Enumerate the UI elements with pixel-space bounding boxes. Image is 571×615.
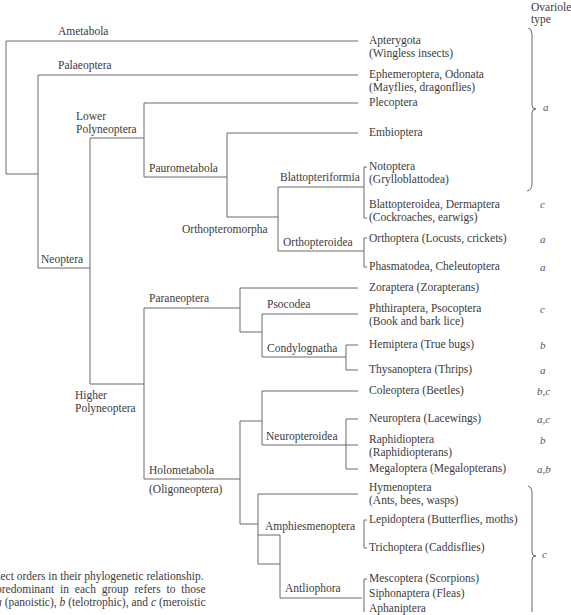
taxon-neuroptera: Neuroptera (Lacewings)	[369, 412, 481, 425]
taxon-phasmatodea: Phasmatodea, Cheleutoptera	[369, 260, 500, 273]
taxon-common-name: (Mayflies, dragonflies)	[369, 81, 484, 94]
taxon-name: Coleoptera (Beetles)	[369, 384, 464, 397]
taxon-thysanoptera: Thysanoptera (Thrips)	[369, 363, 472, 376]
taxon-common-name: (Book and bark lice)	[369, 315, 481, 328]
caption-line3: a (panoistic), b (telotrophic), and c (m…	[0, 596, 326, 609]
clade-higher-polyneoptera-line1: Higher	[75, 389, 107, 402]
taxon-name: Orthoptera (Locusts, crickets)	[369, 232, 507, 245]
taxon-hymenoptera: Hymenoptera (Ants, bees, wasps)	[369, 481, 458, 507]
clade-lower-polyneoptera-line2: Polyneoptera	[76, 123, 137, 136]
clade-paraneoptera: Paraneoptera	[149, 292, 209, 305]
ovariole-type-phasmatodea: a	[540, 261, 546, 273]
ovariole-type-raphidioptera: b	[540, 434, 546, 446]
ovariole-type-phthiraptera: c	[540, 303, 545, 315]
clade-ametabola: Ametabola	[58, 25, 108, 38]
caption-b-text: (telotrophic), and	[65, 596, 151, 608]
clade-amphiesmenoptera: Amphiesmenoptera	[265, 520, 355, 533]
figure-caption: sect orders in their phylogenetic relati…	[0, 570, 326, 609]
taxon-name: Mescoptera (Scorpions)	[369, 572, 479, 585]
taxon-siphonaptera: Siphonaptera (Fleas)	[369, 587, 465, 600]
taxon-lepidoptera: Lepidoptera (Butterflies, moths)	[369, 513, 518, 526]
taxon-raphidioptera: Raphidioptera (Raphidiopterans)	[369, 433, 452, 459]
taxon-name: Phthiraptera, Psocoptera	[369, 302, 481, 315]
brace-label-a: a	[543, 101, 549, 113]
taxon-zoraptera: Zoraptera (Zorapterans)	[369, 281, 479, 294]
taxon-name: Raphidioptera	[369, 433, 452, 446]
clade-higher-polyneoptera-line2: Polyneoptera	[75, 402, 136, 415]
clade-neoptera: Neoptera	[41, 253, 83, 266]
ovariole-type-thysanoptera: a	[540, 364, 546, 376]
taxon-trichoptera: Trichoptera (Caddisflies)	[369, 541, 485, 554]
clade-paurometabola: Paurometabola	[149, 162, 218, 175]
taxon-common-name: (Raphidiopterans)	[369, 446, 452, 459]
clade-orthopteromorpha: Orthopteromorpha	[182, 223, 268, 236]
taxon-common-name: (Cockroaches, earwigs)	[369, 211, 500, 224]
brace-c	[528, 486, 536, 612]
taxon-mescoptera: Mescoptera (Scorpions)	[369, 572, 479, 585]
taxon-megaloptera: Megaloptera (Megalopterans)	[369, 462, 506, 475]
taxon-phthiraptera-psocoptera: Phthiraptera, Psocoptera (Book and bark …	[369, 302, 481, 328]
clade-neuropteroidea: Neuropteroidea	[266, 430, 338, 443]
taxon-notoptera: Notoptera (Grylloblattodea)	[369, 160, 449, 186]
taxon-name: Lepidoptera (Butterflies, moths)	[369, 513, 518, 526]
caption-c-text: (meroistic	[156, 596, 206, 608]
taxon-name: Phasmatodea, Cheleutoptera	[369, 260, 500, 273]
taxon-name: Hymenoptera	[369, 481, 458, 494]
clade-lower-polyneoptera-line1: Lower	[76, 110, 106, 123]
ovariole-type-megaloptera: a,b	[537, 463, 551, 475]
clade-palaeoptera: Palaeoptera	[58, 59, 112, 72]
taxon-name: Apterygota	[369, 34, 453, 47]
taxon-ephemeroptera-odonata: Ephemeroptera, Odonata (Mayflies, dragon…	[369, 68, 484, 94]
taxon-name: Embioptera	[369, 126, 423, 139]
taxon-orthoptera: Orthoptera (Locusts, crickets)	[369, 232, 507, 245]
taxon-name: Thysanoptera (Thrips)	[369, 363, 472, 376]
taxon-aphaniptera: Aphaniptera	[369, 602, 426, 615]
ovariole-type-orthoptera: a	[540, 233, 546, 245]
ovariole-type-hemiptera: b	[540, 339, 546, 351]
ovariole-type-neuroptera: a,c	[537, 413, 550, 425]
taxon-name: Neuroptera (Lacewings)	[369, 412, 481, 425]
caption-line1: sect orders in their phylogenetic relati…	[0, 570, 326, 583]
taxon-embioptera: Embioptera	[369, 126, 423, 139]
taxon-plecoptera: Plecoptera	[369, 96, 418, 109]
caption-line2: predominant in each group refers to thos…	[0, 583, 326, 596]
taxon-common-name: (Grylloblattodea)	[369, 173, 449, 186]
clade-oligoneoptera: (Oligoneoptera)	[149, 483, 222, 496]
taxon-name: Zoraptera (Zorapterans)	[369, 281, 479, 294]
taxon-name: Trichoptera (Caddisflies)	[369, 541, 485, 554]
taxon-common-name: (Wingless insects)	[369, 47, 453, 60]
taxon-name: Megaloptera (Megalopterans)	[369, 462, 506, 475]
clade-psocodea: Psocodea	[267, 298, 310, 311]
taxon-coleoptera: Coleoptera (Beetles)	[369, 384, 464, 397]
ovariole-type-blattopteroidea: c	[540, 198, 545, 210]
taxon-name: Aphaniptera	[369, 602, 426, 615]
taxon-name: Ephemeroptera, Odonata	[369, 68, 484, 81]
taxon-name: Plecoptera	[369, 96, 418, 109]
caption-a-text: (panoistic),	[2, 596, 60, 608]
taxon-name: Blattopteroidea, Dermaptera	[369, 198, 500, 211]
taxon-name: Notoptera	[369, 160, 449, 173]
brace-a	[527, 28, 536, 191]
brace-label-c: c	[542, 548, 547, 560]
taxon-apterygota: Apterygota (Wingless insects)	[369, 34, 453, 60]
clade-orthopteroidea: Orthopteroidea	[283, 236, 353, 249]
taxon-blattopteroidea-dermaptera: Blattopteroidea, Dermaptera (Cockroaches…	[369, 198, 500, 224]
taxon-name: Hemiptera (True bugs)	[369, 338, 474, 351]
clade-holometabola: Holometabola	[149, 464, 214, 477]
ovariole-type-header-line2: type	[531, 13, 551, 26]
clade-condylognatha: Condylognatha	[267, 342, 337, 355]
taxon-hemiptera: Hemiptera (True bugs)	[369, 338, 474, 351]
clade-blattopteriformia: Blattopteriformia	[280, 171, 360, 184]
ovariole-type-coleoptera: b,c	[537, 385, 550, 397]
taxon-common-name: (Ants, bees, wasps)	[369, 494, 458, 507]
taxon-name: Siphonaptera (Fleas)	[369, 587, 465, 600]
